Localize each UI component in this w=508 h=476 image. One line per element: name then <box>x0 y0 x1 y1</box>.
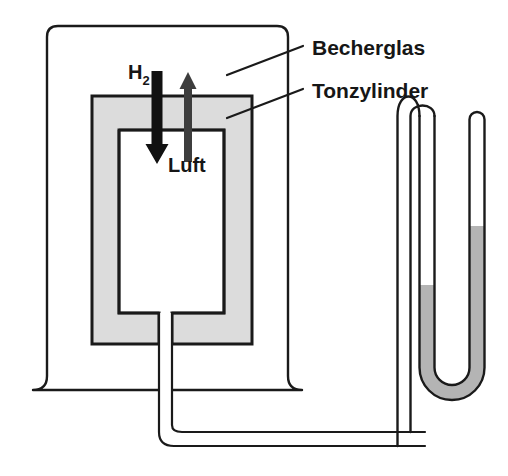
inline-label-hydrogen: H2 <box>128 61 150 88</box>
apparatus-diagram: Becherglas Tonzylinder H2 Luft <box>0 0 508 476</box>
hydrogen-subscript: 2 <box>142 73 149 88</box>
inline-label-air: Luft <box>168 154 206 176</box>
hydrogen-symbol: H <box>128 61 142 83</box>
clay-cylinder-group <box>92 96 252 344</box>
callout-labels: Becherglas Tonzylinder <box>312 36 428 102</box>
manometer-group <box>398 97 485 447</box>
leader-line-becherglas <box>227 46 303 75</box>
clay-cylinder-body <box>92 96 252 344</box>
diagram-canvas: Becherglas Tonzylinder H2 Luft <box>0 0 508 476</box>
callout-label-tonzylinder: Tonzylinder <box>312 79 428 102</box>
callout-label-becherglas: Becherglas <box>312 36 425 59</box>
